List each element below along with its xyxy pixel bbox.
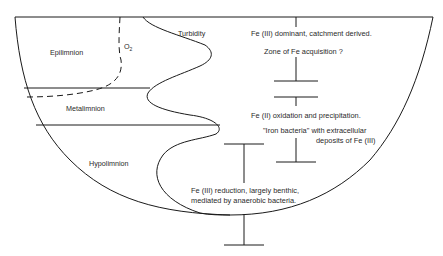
- middle-zone-text-line2: "Iron bacteria" with extracellular: [263, 126, 367, 135]
- middle-zone-text-line3: deposits of Fe (III): [316, 136, 376, 145]
- turbidity-label: Turbidity: [178, 29, 206, 38]
- middle-zone-text-line1: Fe (II) oxidation and precipitation.: [251, 111, 361, 120]
- oxygen-label: O2: [124, 42, 133, 52]
- lower-zone-text-line1: Fe (III) reduction, largely benthic,: [191, 186, 299, 195]
- oxygen-profile-curve: [26, 17, 121, 97]
- upper-zone-text-line1: Fe (III) dominant, catchment derived.: [251, 29, 372, 38]
- lower-zone-text-line2: mediated by anaerobic bacteria.: [191, 196, 296, 205]
- upper-zone-text-line2: Zone of Fe acquisition ?: [264, 47, 343, 56]
- metalimnion-label: Metalimnion: [66, 104, 105, 113]
- lake-iron-cycle-diagram: Epilimnion Metalimnion Hypolimnion O2 Tu…: [0, 0, 443, 256]
- epilimnion-label: Epilimnion: [50, 48, 83, 57]
- hypolimnion-label: Hypolimnion: [89, 159, 129, 168]
